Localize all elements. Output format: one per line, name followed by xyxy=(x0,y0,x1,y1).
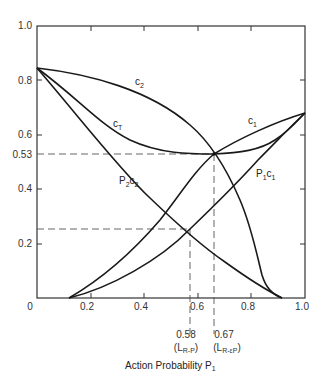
label-P2c2: P2c2 xyxy=(119,175,139,188)
annotation-058: 0.58 xyxy=(176,329,196,340)
curve-P2c2 xyxy=(37,68,282,298)
annotation-067: 0.67 xyxy=(214,329,234,340)
x-tick-label: 0.4 xyxy=(134,301,148,312)
curve-c1 xyxy=(69,113,305,298)
x-tick-label: 0.6 xyxy=(190,301,204,312)
intersection-point xyxy=(212,152,216,156)
y-tick-label: 0.8 xyxy=(18,75,32,86)
x-tick-label: 1.0 xyxy=(295,301,309,312)
y-tick-label: 0.2 xyxy=(18,238,32,249)
curve-P1c1 xyxy=(69,113,305,298)
y-tick-label: 1.0 xyxy=(18,20,32,31)
y-ticks xyxy=(37,80,305,244)
label-c2: c2 xyxy=(135,76,144,89)
plot-frame xyxy=(37,26,305,298)
x-tick-label: 0 xyxy=(27,301,33,312)
curves xyxy=(37,68,305,298)
curve-c2 xyxy=(37,68,282,298)
label-cT: cT xyxy=(113,118,123,131)
y-tick-label: 0.6 xyxy=(18,129,32,140)
x-axis-label: Action Probability P1 xyxy=(125,360,216,372)
annotation-067-sub: (LR-εP) xyxy=(213,342,240,354)
chart: 1.0 0.8 0.6 0.53 0.4 0.2 0 0.2 0.4 0.6 0… xyxy=(0,0,327,389)
label-P1c1: P1c1 xyxy=(256,168,276,181)
label-c1: c1 xyxy=(248,115,257,128)
annotation-058-sub: (LR-P) xyxy=(174,342,198,354)
y-tick-label: 0.53 xyxy=(13,149,33,160)
x-tick-label: 0.8 xyxy=(241,301,255,312)
x-tick-label: 0.2 xyxy=(80,301,94,312)
x-ticks xyxy=(91,26,251,298)
y-tick-label: 0.4 xyxy=(18,183,32,194)
